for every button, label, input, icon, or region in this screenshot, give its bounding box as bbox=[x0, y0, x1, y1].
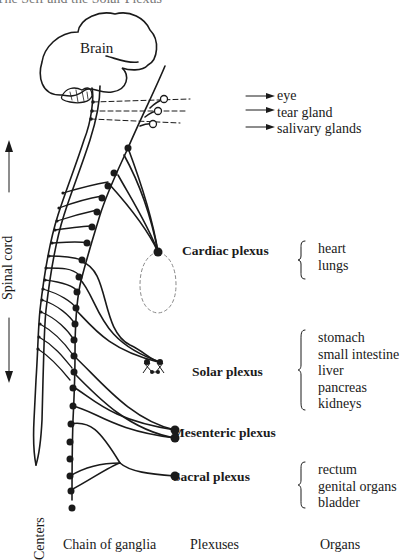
solar-organs: stomach small intestine liver pancreas k… bbox=[318, 330, 399, 413]
organ-small-intestine: small intestine bbox=[318, 347, 399, 364]
organ-stomach: stomach bbox=[318, 330, 399, 347]
cardiac-plexus-label: Cardiac plexus bbox=[182, 242, 269, 259]
organ-eye: eye bbox=[277, 88, 361, 105]
sacral-organs: rectum genital organs bladder bbox=[318, 462, 397, 512]
brace-cardiac bbox=[298, 241, 305, 279]
organ-liver: liver bbox=[318, 363, 399, 380]
organ-lungs: lungs bbox=[318, 258, 348, 275]
organ-heart: heart bbox=[318, 241, 348, 258]
organ-rectum: rectum bbox=[318, 462, 397, 479]
brace-sacral bbox=[298, 462, 305, 508]
organ-kidneys: kidneys bbox=[318, 396, 399, 413]
chain-of-ganglia-label: Chain of ganglia bbox=[63, 536, 156, 553]
brain-label: Brain bbox=[80, 40, 113, 57]
organ-genital-organs: genital organs bbox=[318, 479, 397, 496]
plexuses-label: Plexuses bbox=[190, 536, 239, 553]
spinal-cord-label: Spinal cord bbox=[0, 236, 16, 300]
cardiac-organs: heart lungs bbox=[318, 241, 348, 274]
organs-label: Organs bbox=[320, 536, 360, 553]
centers-label: Centers bbox=[32, 517, 48, 560]
brace-solar bbox=[298, 330, 305, 410]
organ-bladder: bladder bbox=[318, 495, 397, 512]
mesenteric-plexus-label: Mesenteric plexus bbox=[172, 424, 276, 441]
sacral-plexus-label: Sacral plexus bbox=[173, 468, 250, 485]
head-organs: eye tear gland salivary glands bbox=[277, 88, 361, 138]
organ-salivary-glands: salivary glands bbox=[277, 121, 361, 138]
heart-outline bbox=[140, 252, 176, 313]
cardiac-plexus-node bbox=[154, 248, 163, 257]
organ-pancreas: pancreas bbox=[318, 380, 399, 397]
organ-tear-gland: tear gland bbox=[277, 105, 361, 122]
solar-plexus-label: Solar plexus bbox=[192, 363, 263, 380]
